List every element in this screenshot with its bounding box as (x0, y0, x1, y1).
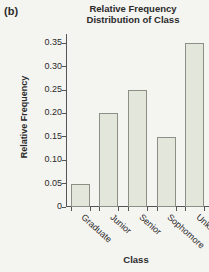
x-axis-title: Class (66, 254, 206, 265)
y-axis-tick-mark (62, 136, 66, 137)
chart-title-line-1: Relative Frequency (58, 3, 208, 14)
y-axis-line (66, 34, 67, 207)
bar (157, 137, 176, 207)
y-axis-tick-mark (62, 43, 66, 44)
y-axis-tick-mark (62, 160, 66, 161)
y-axis-tick-label: 0.15 (44, 131, 62, 141)
panel-label: (b) (4, 5, 18, 17)
x-axis-category-labels: GraduateJuniorSeniorSophomoreUnknown (0, 208, 209, 254)
y-axis-tick-mark (62, 66, 66, 67)
bar (71, 184, 90, 207)
bar (185, 43, 204, 207)
y-axis-tick-mark (62, 183, 66, 184)
y-axis-tick-label: 0.25 (44, 84, 62, 94)
y-axis-tick-mark (62, 113, 66, 114)
y-axis-tick-labels: 00.050.100.150.200.250.300.35 (26, 34, 62, 207)
y-axis-tick-mark (62, 90, 66, 91)
chart-title-line-2: Distribution of Class (58, 14, 208, 25)
bar (128, 90, 147, 207)
y-axis-tick-label: 0.20 (44, 107, 62, 117)
chart-screenshot: (b) Relative Frequency Distribution of C… (0, 0, 209, 272)
plot-area (66, 34, 209, 207)
y-axis-tick-label: 0.10 (44, 154, 62, 164)
bar (99, 113, 118, 207)
y-axis-tick-label: 0.05 (44, 178, 62, 188)
x-axis-category-label: Senior (137, 212, 163, 237)
y-axis-tick-label: 0.30 (44, 61, 62, 71)
chart-title: Relative Frequency Distribution of Class (58, 3, 208, 25)
x-axis-category-label: Junior (108, 212, 133, 236)
y-axis-tick-label: 0.35 (44, 37, 62, 47)
